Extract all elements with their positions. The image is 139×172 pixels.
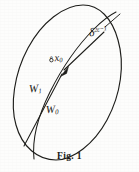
label-point-x0: ∘x0 [49,53,63,65]
figure-container: ∘x0 W1 W0 δ2ε−1 Fig. 1 [0,0,139,172]
region-w1-subscript: 1 [38,88,42,95]
label-region-w0: W0 [46,105,59,118]
delta-superscript: 2ε−1 [93,25,107,34]
figure-caption: Fig. 1 [0,151,139,161]
region-w0-subscript: 0 [55,109,59,116]
figure-drawing [0,0,139,172]
label-region-w1: W1 [29,84,42,97]
point-x0-subscript: 0 [59,57,63,64]
